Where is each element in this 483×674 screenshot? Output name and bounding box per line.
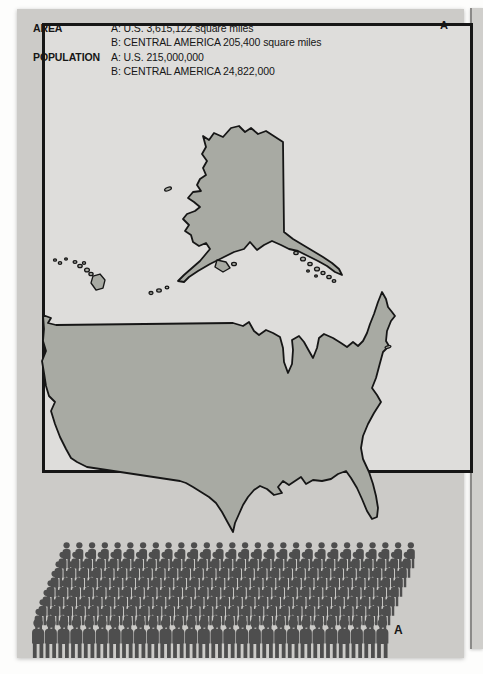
infographic-panel [17, 9, 464, 658]
population-central-america-value: B: CENTRAL AMERICA 24,822,000 [111, 64, 321, 78]
population-label: POPULATION [33, 50, 111, 79]
legend: AREA A: U.S. 3,615,122 square miles B: C… [33, 21, 321, 78]
area-us-value: A: U.S. 3,615,122 square miles [111, 21, 321, 35]
area-label: AREA [33, 21, 111, 50]
map-frame-box [42, 23, 473, 473]
area-lines: A: U.S. 3,615,122 square miles B: CENTRA… [111, 21, 321, 50]
population-us-value: A: U.S. 215,000,000 [111, 50, 321, 64]
population-lines: A: U.S. 215,000,000 B: CENTRAL AMERICA 2… [111, 50, 321, 79]
area-central-america-value: B: CENTRAL AMERICA 205,400 square miles [111, 35, 321, 49]
crowd-marker: A [394, 623, 403, 637]
panel-marker: A [440, 19, 448, 31]
